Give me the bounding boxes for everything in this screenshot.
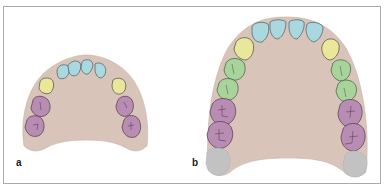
tooth-canine	[112, 78, 126, 94]
panel-a-label: a	[16, 157, 22, 168]
tooth-third-molar	[343, 151, 367, 177]
panel-a-arch	[23, 55, 148, 151]
tooth-molar	[116, 96, 133, 116]
tooth-molar	[207, 121, 233, 148]
panel-b-arch	[206, 17, 367, 177]
tooth-molar	[25, 116, 44, 137]
tooth-molar	[122, 116, 141, 138]
tooth-canine	[39, 78, 54, 94]
tooth-molar	[338, 99, 362, 127]
tooth-molar	[341, 123, 365, 151]
tooth-premolar	[224, 59, 245, 81]
tooth-premolar	[217, 79, 238, 101]
tooth-incisor	[95, 63, 106, 78]
panel-b-label: b	[192, 157, 198, 168]
tooth-third-molar	[206, 148, 230, 175]
